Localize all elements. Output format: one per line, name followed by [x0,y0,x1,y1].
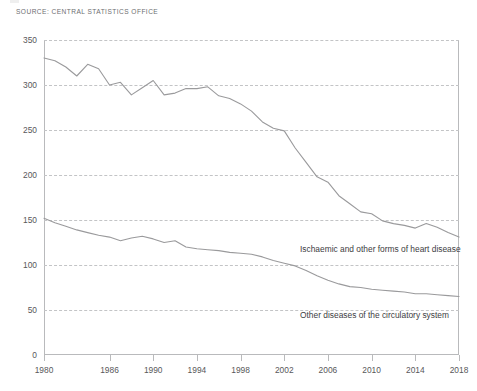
y-tick-label-250: 250 [23,125,37,135]
x-tick-label-1986: 1986 [100,365,119,375]
y-tick-label-100: 100 [23,260,37,270]
x-tick-label-2010: 2010 [362,365,381,375]
y-tick-label-150: 150 [23,215,37,225]
y-tick-label-300: 300 [23,80,37,90]
x-tick-mark-2010 [372,355,373,361]
x-tick-label-1994: 1994 [188,365,207,375]
y-tick-label-200: 200 [23,170,37,180]
series-lines-layer [44,40,459,355]
x-tick-label-2014: 2014 [406,365,425,375]
x-tick-mark-1998 [241,355,242,361]
x-tick-mark-1990 [153,355,154,361]
x-tick-label-2018: 2018 [450,365,469,375]
x-tick-mark-2002 [284,355,285,361]
x-tick-label-1980: 1980 [35,365,54,375]
x-tick-mark-1994 [197,355,198,361]
x-tick-mark-2006 [328,355,329,361]
y-tick-label-350: 350 [23,35,37,45]
source-attribution: SOURCE: CENTRAL STATISTICS OFFICE [16,8,158,15]
x-tick-label-2002: 2002 [275,365,294,375]
x-tick-mark-1980 [44,355,45,361]
y-tick-label-0: 0 [32,350,37,360]
x-tick-label-2006: 2006 [319,365,338,375]
series-label-circulatory-system: Other diseases of the circulatory system [300,310,449,320]
x-tick-label-1998: 1998 [231,365,250,375]
series-line-0 [44,58,459,237]
y-tick-label-50: 50 [28,305,37,315]
series-label-heart-disease: Ischaemic and other forms of heart disea… [300,244,461,254]
series-line-1 [44,218,459,296]
top-edge-artifact [10,0,19,3]
chart-page: SOURCE: CENTRAL STATISTICS OFFICE 050100… [0,0,477,391]
x-tick-mark-1986 [110,355,111,361]
x-tick-label-1990: 1990 [144,365,163,375]
x-tick-mark-2018 [459,355,460,361]
chart-plot-area: 050100150200250300350 198019861990199419… [44,40,459,355]
x-tick-mark-2014 [415,355,416,361]
